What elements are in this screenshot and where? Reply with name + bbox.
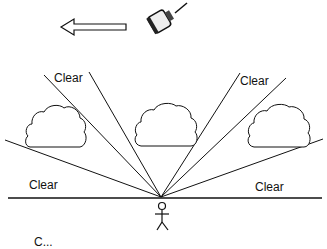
label-partial-bottom: C... <box>34 236 53 248</box>
stick-figure-icon <box>155 203 169 231</box>
label-clear-upper-right: Clear <box>240 75 269 87</box>
cloud-icon-center <box>135 103 197 146</box>
left-arrow-icon <box>61 19 126 35</box>
label-clear-upper-left: Clear <box>54 72 83 84</box>
cloud-icon-right <box>248 104 310 147</box>
cloud-icon-left <box>26 105 86 147</box>
label-clear-lower-right: Clear <box>255 181 284 193</box>
satellite-icon <box>146 3 187 34</box>
label-clear-lower-left: Clear <box>29 179 58 191</box>
